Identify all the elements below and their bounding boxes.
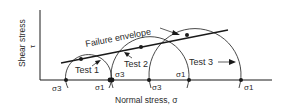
tangent-point-test-2 — [139, 45, 143, 49]
sigma3-label-test-1: σ3 — [52, 84, 62, 93]
envelope-arrowhead-icon — [172, 30, 180, 35]
x-axis-label: Normal stress, σ — [115, 95, 178, 105]
y-axis-symbol: τ — [28, 44, 37, 48]
sigma3-point-test-3 — [147, 78, 151, 82]
sigma1-label-test-2: σ1 — [176, 70, 186, 79]
y-axis-label: Shear stress — [17, 19, 27, 67]
mohr-circle-diagram: Failure envelope Test 1 Test 2 Test 3 σ3… — [0, 0, 283, 110]
test-1-label: Test 1 — [75, 65, 99, 75]
sigma1-point-test-2 — [187, 78, 191, 82]
test-3-label: Test 3 — [189, 57, 213, 67]
sigma1-label-test-1: σ1 — [95, 83, 105, 92]
tangent-point-test-1 — [79, 57, 83, 61]
sigma3-label-test-3: σ3 — [152, 83, 162, 92]
sigma1-point-test-3 — [239, 78, 243, 82]
tangent-point-test-3 — [185, 33, 189, 37]
sigma3-point-test-1 — [64, 78, 68, 82]
test-3-arrowhead-icon — [229, 59, 236, 65]
sigma1-label-test-3: σ1 — [244, 83, 254, 92]
test-2-label: Test 2 — [124, 59, 148, 69]
sigma3-label-test-2: σ3 — [115, 70, 125, 79]
sigma3-point-test-2 — [110, 78, 115, 83]
